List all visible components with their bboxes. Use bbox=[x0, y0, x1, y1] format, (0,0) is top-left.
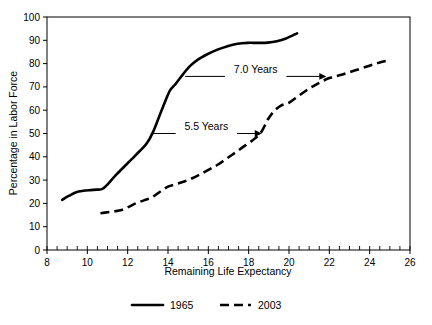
y-axis-title: Percentage in Labor Force bbox=[7, 71, 19, 195]
y-tick-label: 70 bbox=[29, 81, 41, 92]
y-tick-label: 100 bbox=[23, 12, 40, 23]
series-line-1965 bbox=[62, 33, 297, 200]
chart-canvas: 0102030405060708090100 81012141618202224… bbox=[0, 0, 432, 325]
x-axis-title: Remaining Life Expectancy bbox=[164, 265, 292, 277]
series-line-2003 bbox=[100, 60, 389, 213]
y-tick-label: 0 bbox=[34, 245, 40, 256]
annotation-label: 7.0 Years bbox=[234, 63, 278, 75]
y-tick-label: 10 bbox=[29, 221, 41, 232]
y-tick-label: 90 bbox=[29, 35, 41, 46]
legend-label-2003: 2003 bbox=[258, 299, 282, 311]
legend-label-1965: 1965 bbox=[170, 299, 194, 311]
x-tick-label: 24 bbox=[364, 257, 376, 268]
annotation-label: 5.5 Years bbox=[184, 120, 228, 132]
chart-figure: 0102030405060708090100 81012141618202224… bbox=[0, 0, 432, 325]
y-tick-label: 30 bbox=[29, 175, 41, 186]
x-tick-label: 10 bbox=[82, 257, 94, 268]
y-axis-ticks bbox=[43, 17, 47, 250]
gap-annotation: 5.5 Years bbox=[151, 120, 262, 137]
x-tick-label: 12 bbox=[122, 257, 134, 268]
y-tick-label: 50 bbox=[29, 128, 41, 139]
plot-area-frame bbox=[47, 17, 410, 250]
y-axis-tick-labels: 0102030405060708090100 bbox=[23, 12, 40, 256]
y-tick-label: 80 bbox=[29, 58, 41, 69]
x-tick-label: 26 bbox=[404, 257, 416, 268]
x-axis-ticks bbox=[47, 250, 410, 254]
chart-legend: 1965 2003 bbox=[132, 299, 282, 311]
y-tick-label: 40 bbox=[29, 151, 41, 162]
x-axis-minor-ticks bbox=[47, 246, 410, 250]
y-tick-label: 60 bbox=[29, 105, 41, 116]
y-tick-label: 20 bbox=[29, 198, 41, 209]
gap-annotation: 7.0 Years bbox=[185, 63, 326, 80]
gap-annotations: 5.5 Years7.0 Years bbox=[151, 63, 326, 137]
x-tick-label: 8 bbox=[44, 257, 50, 268]
x-tick-label: 22 bbox=[324, 257, 336, 268]
